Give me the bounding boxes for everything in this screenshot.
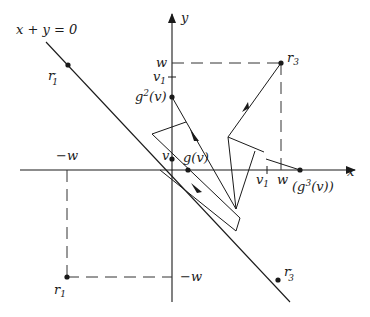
label-w-x: w [277,172,288,187]
label-neg-w-x: −w [56,148,78,163]
label-v1-x: v1 [256,172,269,189]
label-v1-y: v1 [153,69,166,86]
label-r1: r1 [54,282,66,299]
direction-arrow-icon [191,183,202,193]
point-r3-prime [275,277,280,282]
label-r3-prime: r′3 [284,264,294,283]
label-neg-w-y: −w [180,269,202,284]
orbit-path-mid [236,151,255,209]
point-g2v [169,94,174,99]
y-axis-label: y [180,10,189,25]
diagram-figure: x + y = 0 y x r′1 w v1 g2(v) r3 −w v g(v… [0,0,370,317]
label-w-y: w [156,55,167,70]
orbit-path-right-dash [266,159,300,170]
direction-arrow-icon [242,102,249,112]
diagonal-line [46,42,290,302]
point-v [169,156,174,161]
label-g2v: g2(v) [135,88,167,104]
orbit-path-lower [228,137,264,152]
x-axis-label: x [347,164,355,179]
point-r3 [278,60,283,65]
label-r1-prime: r′1 [48,68,58,87]
line-label: x + y = 0 [16,22,77,37]
label-v: v [162,148,170,163]
point-g3v [297,167,302,172]
point-r1-prime [65,62,70,67]
label-gv: g(v) [183,150,209,165]
label-g3v: (g3(v)) [292,178,334,194]
label-r3: r3 [287,50,299,67]
point-gv [185,167,190,172]
point-r1 [64,274,69,279]
